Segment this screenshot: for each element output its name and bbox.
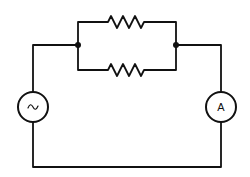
ammeter-label: A [217, 101, 225, 113]
wire-left-upper [33, 45, 78, 92]
wire-parallel-bottom [78, 45, 176, 76]
sine-wave-icon [28, 105, 38, 110]
junction-right-dot [173, 42, 179, 48]
wire-parallel-top [78, 16, 176, 45]
wire-right-upper [176, 45, 221, 92]
circuit-diagram: A [0, 0, 250, 177]
circuit-svg: A [0, 0, 250, 177]
junction-left-dot [75, 42, 81, 48]
wire-left-lower [33, 122, 221, 167]
